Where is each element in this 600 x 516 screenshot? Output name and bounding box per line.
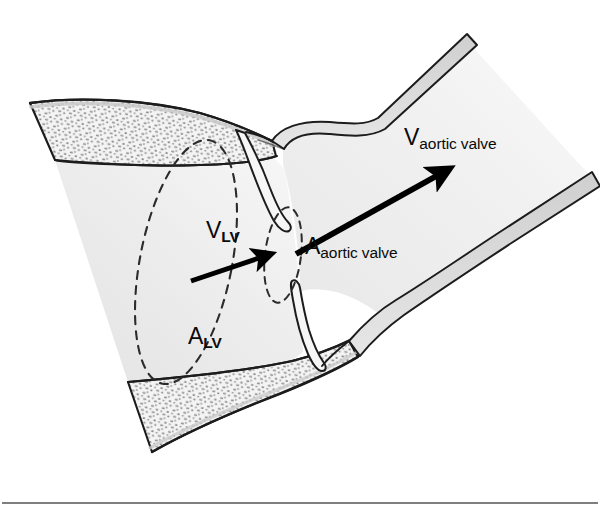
velocity-aortic-valve-symbol: V <box>404 126 419 149</box>
area-aortic-valve-symbol: A <box>305 235 320 258</box>
area-aortic-valve-subscript: aortic valve <box>320 245 397 261</box>
velocity-left-ventricle-subscript: LV <box>221 229 239 245</box>
velocity-left-ventricle-label: VLV <box>206 219 240 242</box>
area-aortic-valve-label: Aaortic valve <box>305 235 398 258</box>
figure-root: Vaortic valve Aaortic valve VLV ALV <box>0 0 600 516</box>
velocity-aortic-valve-label: Vaortic valve <box>404 126 497 149</box>
anatomical-diagram-canvas <box>0 0 600 516</box>
area-left-ventricle-subscript: LV <box>203 335 221 351</box>
velocity-aortic-valve-subscript: aortic valve <box>419 136 496 152</box>
area-left-ventricle-symbol: A <box>188 325 203 348</box>
velocity-left-ventricle-symbol: V <box>206 219 221 242</box>
area-left-ventricle-label: ALV <box>188 325 222 348</box>
